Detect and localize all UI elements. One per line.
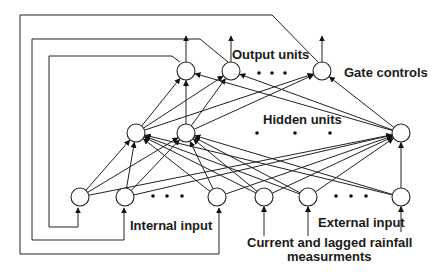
rainfall-label-line2: measurments [287,249,372,264]
input-to-hidden-edge [134,135,392,195]
diagram-svg: Output units Gate controls Hidden units … [0,0,444,275]
ellipsis-dot [180,194,184,198]
ellipsis-dot [257,71,261,75]
input-to-hidden-edge [272,137,392,193]
external-input-node [299,188,317,206]
ellipsis-dot [349,194,353,198]
external-input-node [392,188,410,206]
ellipsis-dot [270,71,274,75]
output-node [177,62,195,80]
internal-input-node [208,188,226,206]
output-units-label: Output units [232,47,309,62]
external-input-node [255,188,273,206]
internal-input-label: Internal input [130,218,213,233]
rnn-diagram: Output units Gate controls Hidden units … [0,0,444,275]
output-node [313,62,331,80]
hidden-units-label: Hidden units [263,112,342,127]
internal-input-node [71,188,89,206]
input-to-hidden-edge [88,138,178,192]
external-input-label: External input [318,215,405,230]
hidden-node [177,124,195,142]
feedback-loop-line [49,56,180,227]
input-to-hidden-edge [194,137,300,192]
ellipsis-dot [364,194,368,198]
ellipsis-dot [283,71,287,75]
input-to-hidden-edge [145,136,300,194]
hidden-node [392,124,410,142]
output-node [222,62,240,80]
ellipsis-dot [293,131,297,135]
hidden-node [127,124,145,142]
internal-input-node [116,188,134,206]
input-to-hidden-edge [131,140,179,191]
hidden-to-output-edge [144,76,224,128]
hidden-to-output-edge [142,78,180,126]
ellipsis-dot [165,194,169,198]
gate-controls-label: Gate controls [344,65,428,80]
ellipsis-dot [328,131,332,135]
ellipsis-dot [255,131,259,135]
input-to-hidden-edge [315,138,393,192]
ellipsis-dot [334,194,338,198]
ellipsis-dot [151,194,155,198]
rainfall-label-line1: Current and lagged rainfall [247,235,412,250]
input-to-hidden-edge [86,140,130,190]
